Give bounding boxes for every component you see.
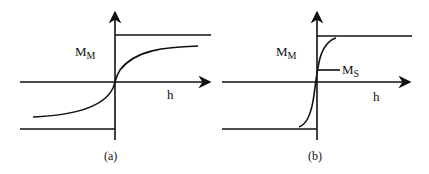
label-main: M [75,44,87,59]
label-sub: M [288,50,297,61]
label-a-h: h [167,88,174,101]
label-main: M [276,44,288,59]
label-a-MM: MM [75,45,95,58]
panel-a [20,12,211,140]
label-sub: M [87,50,96,61]
label-b-h: h [373,90,380,103]
label-sub: S [354,68,360,79]
panel-b [222,12,412,140]
diagram-canvas [0,0,429,174]
caption-a: (a) [104,150,117,162]
caption-b: (b) [308,150,322,162]
label-b-MM: MM [276,45,296,58]
label-b-MS: MS [342,63,359,76]
label-main: M [342,62,354,77]
